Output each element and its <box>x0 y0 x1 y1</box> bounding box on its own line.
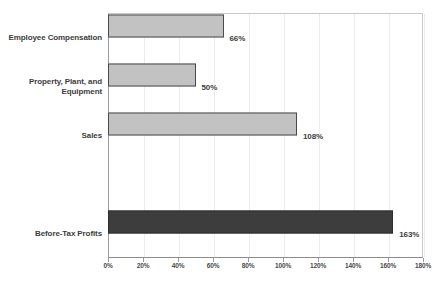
category-label: Sales <box>4 131 102 141</box>
x-axis-tick-label: 100% <box>275 262 291 269</box>
category-label: Employee Compensation <box>4 33 102 43</box>
category-label: Before-Tax Profits <box>4 229 102 239</box>
bar-value-label: 66% <box>230 33 246 42</box>
x-axis-tick-label: 120% <box>310 262 326 269</box>
x-axis-tick-label: 40% <box>172 262 185 269</box>
x-axis-tick-label: 20% <box>137 262 150 269</box>
bar-chart: 66%50%108%163% Employee CompensationProp… <box>0 0 442 295</box>
bar-value-label: 163% <box>399 229 419 238</box>
x-axis-tick-label: 80% <box>242 262 255 269</box>
bar <box>108 15 224 38</box>
x-axis-tick-label: 140% <box>345 262 361 269</box>
bar-value-label: 108% <box>303 131 323 140</box>
bar <box>108 64 196 87</box>
bar <box>108 211 393 234</box>
bar-value-label: 50% <box>202 82 218 91</box>
category-label: Property, Plant, and Equipment <box>4 77 102 97</box>
x-axis-tick-label: 160% <box>380 262 396 269</box>
bar <box>108 113 297 136</box>
x-axis-tick-label: 180% <box>415 262 431 269</box>
gridline <box>424 14 425 257</box>
x-axis-tick-label: 0% <box>103 262 112 269</box>
x-axis-tick-label: 60% <box>207 262 220 269</box>
